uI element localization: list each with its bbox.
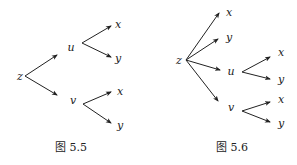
tree-edges [0, 0, 297, 165]
figure-caption: 图 5.5 [55, 142, 87, 153]
node-z: z [176, 55, 182, 66]
node-ux: x [115, 19, 121, 30]
arrow-z-to-v [186, 60, 218, 101]
arrow-v-to-y [83, 104, 111, 123]
node-u: u [67, 42, 74, 53]
arrow-v-to-y [242, 111, 270, 122]
arrow-v-to-x [242, 102, 270, 111]
node-y: y [226, 32, 232, 43]
node-u: u [227, 66, 234, 77]
arrow-z-to-u [186, 60, 220, 70]
diagram-stage: 图 5.5 zuvxyxy 图 5.6 zxyuvxyxy [0, 0, 297, 165]
arrow-u-to-x [242, 57, 270, 72]
node-v: v [70, 95, 76, 106]
arrow-u-to-y [242, 72, 270, 79]
arrow-v-to-x [83, 92, 111, 104]
node-vx: x [117, 86, 123, 97]
arrow-z-to-y [186, 39, 218, 60]
node-z: z [17, 71, 23, 82]
arrow-u-to-x [82, 26, 111, 43]
arrow-z-to-x [186, 13, 219, 60]
node-ux: x [278, 47, 284, 58]
arrow-u-to-y [82, 43, 111, 57]
node-uy: y [115, 53, 121, 64]
node-x: x [226, 7, 232, 18]
arrow-z-to-v [25, 76, 57, 95]
node-v: v [228, 102, 234, 113]
node-vy: y [278, 118, 284, 129]
node-vx: x [278, 94, 284, 105]
figure-caption: 图 5.6 [216, 142, 248, 153]
node-vy: y [117, 120, 123, 131]
node-uy: y [278, 74, 284, 85]
arrow-z-to-u [25, 55, 57, 76]
